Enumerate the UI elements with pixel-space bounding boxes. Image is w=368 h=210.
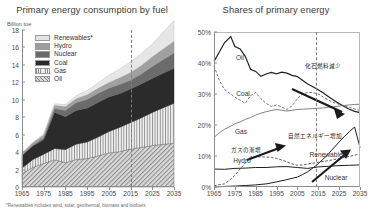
annotation-fossil-decline: 化石燃料減少 [305, 62, 341, 70]
legend-swatch-gas-icon [35, 68, 50, 74]
legend-swatch-nuclear-icon [35, 51, 50, 57]
legend-label-nuclear: Nuclear [54, 51, 77, 58]
energy-charts-figure: Primary energy consumption by fuel Billi… [0, 0, 368, 210]
left-chart-panel: Primary energy consumption by fuel Billi… [0, 0, 184, 210]
series-label-coal: Coal [236, 90, 250, 97]
legend-item-gas: Gas [35, 68, 93, 75]
series-label-gas: Gas [235, 128, 247, 135]
series-label-nuclear: Nuclear [325, 174, 348, 181]
legend-item-renewables: Renewables* [35, 35, 93, 42]
series-label-renewables: Renewables* [310, 151, 349, 158]
series-label-hydro: Hydro [233, 157, 251, 164]
legend-swatch-renewables-icon [35, 35, 50, 41]
legend-swatch-hydro-icon [35, 43, 50, 49]
right-forecast-divider [316, 32, 317, 187]
left-chart-title: Primary energy consumption by fuel [0, 5, 184, 15]
annotation-renewables-growth: 自然エネルギー増加 [288, 132, 342, 140]
legend-item-nuclear: Nuclear [35, 51, 93, 58]
annotation-gas-growth: ガスの漸増 [231, 146, 261, 154]
legend-swatch-coal-icon [35, 60, 50, 66]
legend-swatch-oil-icon [35, 76, 50, 82]
right-chart-title: Shares of primary energy [184, 5, 368, 15]
legend-item-oil: Oil [35, 76, 93, 83]
legend-item-hydro: Hydro [35, 43, 93, 50]
legend-label-hydro: Hydro [54, 43, 72, 50]
left-forecast-divider [131, 30, 132, 187]
legend-label-oil: Oil [54, 76, 62, 83]
legend-label-coal: Coal [54, 60, 68, 67]
left-chart-footnote: *Renewables includes wind, solar, geothe… [6, 203, 145, 208]
legend-label-gas: Gas [54, 68, 66, 75]
right-plot-area: 0% 10% 20% 30% 40% 50% 1965 1975 1985 19… [214, 32, 360, 187]
series-label-oil: Oil [236, 54, 244, 61]
right-chart-panel: Shares of primary energy [184, 0, 368, 210]
legend-item-coal: Coal [35, 60, 93, 67]
legend-label-renewables: Renewables* [54, 35, 93, 42]
left-chart-legend: Renewables* Hydro Nuclear Coal Gas Oil [35, 35, 93, 83]
